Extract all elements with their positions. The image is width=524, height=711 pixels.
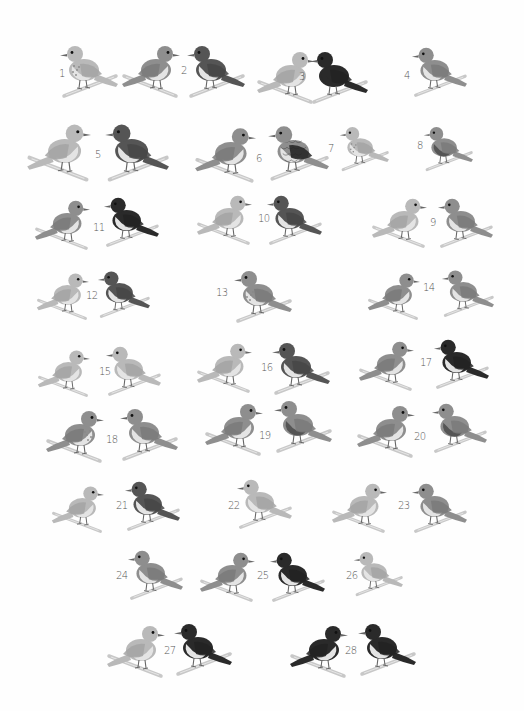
plate-number-7: 7: [328, 143, 334, 154]
bird-illustration-plate: 1234567891011121314151617181920212223242…: [0, 0, 524, 711]
bird-illustration-20a: [355, 400, 417, 458]
plate-number-8: 8: [417, 140, 423, 151]
plate-number-28: 28: [345, 645, 357, 656]
plate-number-9: 9: [430, 217, 436, 228]
plate-number-27: 27: [164, 645, 176, 656]
bird-illustration-11b: [102, 192, 161, 247]
bird-illustration-12a: [35, 268, 91, 320]
plate-number-4: 4: [404, 70, 410, 81]
bird-illustration-25a: [198, 547, 257, 602]
bird-illustration-7: [338, 122, 391, 171]
bird-illustration-23b: [410, 478, 469, 533]
plate-number-14: 14: [423, 282, 435, 293]
bird-illustration-9a: [370, 193, 429, 248]
bird-illustration-20b: [430, 398, 489, 453]
bird-illustration-2a: [120, 40, 182, 98]
plate-number-2: 2: [181, 65, 187, 76]
plate-number-13: 13: [216, 287, 228, 298]
plate-number-25: 25: [257, 570, 269, 581]
plate-number-12: 12: [86, 290, 98, 301]
bird-illustration-1: [58, 40, 120, 98]
bird-illustration-24: [126, 545, 185, 600]
bird-illustration-2b: [185, 40, 247, 98]
plate-number-16: 16: [261, 362, 273, 373]
bird-illustration-4: [410, 42, 469, 97]
bird-illustration-22: [235, 474, 294, 529]
bird-illustration-5a: [25, 118, 93, 182]
bird-illustration-11a: [33, 195, 92, 250]
plate-number-11: 11: [93, 222, 105, 233]
plate-number-3: 3: [299, 71, 305, 82]
bird-illustration-16b: [270, 337, 332, 395]
bird-illustration-18b: [118, 403, 180, 461]
plate-number-15: 15: [99, 366, 111, 377]
plate-number-26: 26: [346, 570, 358, 581]
bird-illustration-27b: [172, 618, 234, 676]
bird-illustration-19b: [272, 395, 334, 453]
bird-illustration-23a: [330, 478, 389, 533]
bird-illustration-16a: [195, 338, 254, 393]
plate-number-24: 24: [116, 570, 128, 581]
bird-illustration-5b: [103, 118, 171, 182]
bird-illustration-17b: [432, 334, 491, 389]
plate-number-17: 17: [420, 357, 432, 368]
bird-illustration-17a: [357, 336, 416, 391]
plate-number-1: 1: [59, 68, 65, 79]
bird-illustration-10a: [195, 190, 254, 245]
bird-illustration-9b: [436, 193, 495, 248]
bird-illustration-19a: [203, 398, 265, 456]
bird-illustration-28a: [288, 620, 350, 678]
bird-illustration-18a: [44, 405, 106, 463]
plate-number-18: 18: [106, 434, 118, 445]
bird-illustration-14b: [440, 265, 496, 317]
bird-illustration-13: [232, 265, 294, 323]
plate-number-19: 19: [259, 430, 271, 441]
bird-illustration-25b: [268, 547, 327, 602]
plate-number-10: 10: [258, 213, 270, 224]
bird-illustration-26: [352, 547, 405, 596]
plate-number-23: 23: [398, 500, 410, 511]
plate-number-22: 22: [228, 500, 240, 511]
bird-illustration-14a: [366, 268, 422, 320]
bird-illustration-10b: [265, 190, 324, 245]
bird-illustration-15b: [104, 341, 163, 396]
plate-number-6: 6: [256, 153, 262, 164]
plate-number-21: 21: [116, 500, 128, 511]
bird-illustration-3b: [308, 46, 370, 104]
plate-number-5: 5: [95, 149, 101, 160]
bird-illustration-8: [422, 122, 475, 171]
bird-illustration-6b: [266, 120, 331, 181]
bird-illustration-27a: [105, 620, 167, 678]
bird-illustration-15a: [36, 345, 92, 397]
bird-illustration-28b: [356, 618, 418, 676]
bird-illustration-21a: [50, 481, 106, 533]
plate-number-20: 20: [414, 431, 426, 442]
bird-illustration-21b: [123, 476, 182, 531]
bird-illustration-6a: [193, 122, 258, 183]
bird-illustration-12b: [96, 266, 152, 318]
